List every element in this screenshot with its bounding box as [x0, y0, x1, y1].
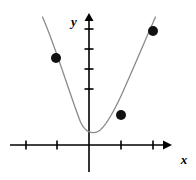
data-point-right	[148, 26, 158, 36]
x-axis	[10, 141, 172, 150]
graph-figure: y x	[0, 0, 196, 180]
data-points	[51, 26, 158, 120]
y-axis-arrow-icon	[85, 13, 94, 21]
y-axis	[85, 13, 94, 172]
x-axis-label: x	[180, 152, 188, 167]
parabola-curve	[43, 17, 156, 133]
x-axis-arrow-icon	[163, 141, 172, 150]
coordinate-plane: y x	[0, 0, 196, 180]
data-point-middle	[116, 110, 126, 120]
data-point-left	[51, 53, 61, 63]
y-axis-label: y	[69, 14, 77, 29]
